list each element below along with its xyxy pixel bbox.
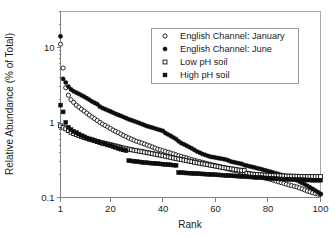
x-axis-ticks: 120406080100 <box>58 198 329 214</box>
y-tick-label: 10 <box>44 42 55 53</box>
legend-label: English Channel: June <box>180 44 272 54</box>
x-tick-label: 100 <box>313 203 329 214</box>
data-point <box>61 66 65 70</box>
data-point <box>319 178 323 182</box>
x-axis-title: Rank <box>178 219 202 230</box>
data-point <box>124 149 128 153</box>
legend-label: High pH soil <box>180 70 230 80</box>
legend-label: Low pH soil <box>180 57 228 67</box>
chart-plot-area: 0.1110 120406080100 Rank Relative Abunda… <box>0 0 335 237</box>
data-point <box>61 110 65 114</box>
x-tick-label: 1 <box>58 203 63 214</box>
y-axis-title: Relative Abundance (% of Total) <box>4 33 15 175</box>
data-point <box>318 192 322 196</box>
chart-figure: 0.1110 120406080100 Rank Relative Abunda… <box>0 0 335 237</box>
data-point <box>319 175 323 179</box>
x-tick-label: 80 <box>263 203 274 214</box>
data-point <box>58 34 62 38</box>
legend-marker-filled-circle <box>163 47 167 51</box>
series-open-square <box>59 124 323 179</box>
data-point <box>66 93 70 97</box>
legend-marker-open-square <box>163 60 167 64</box>
data-point <box>64 120 68 124</box>
data-point <box>58 42 62 46</box>
y-axis-ticks: 0.1110 <box>41 12 60 203</box>
legend-label: English Channel: January <box>180 31 285 41</box>
legend-marker-open-circle <box>163 34 167 38</box>
data-point <box>64 80 68 84</box>
data-point <box>61 77 65 81</box>
series-filled-square <box>59 103 323 182</box>
chart-legend: English Channel: JanuaryEnglish Channel:… <box>152 29 299 84</box>
data-point <box>59 103 63 107</box>
x-tick-label: 60 <box>210 203 221 214</box>
data-point <box>174 163 178 167</box>
y-tick-label: 1 <box>49 117 54 128</box>
x-tick-label: 20 <box>105 203 116 214</box>
y-tick-label: 0.1 <box>41 192 54 203</box>
legend-marker-filled-square <box>163 73 167 77</box>
x-tick-label: 40 <box>158 203 169 214</box>
